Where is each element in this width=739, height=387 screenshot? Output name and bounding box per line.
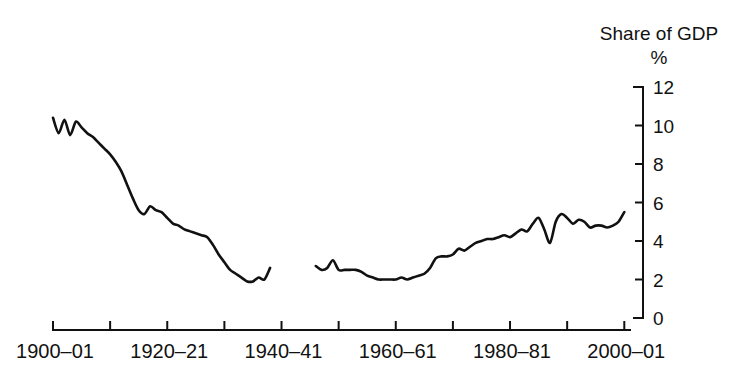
- chart-subtitle-percent: %: [651, 47, 668, 68]
- x-tick-label: 1960–61: [359, 340, 437, 362]
- series-line-segment: [53, 118, 270, 282]
- x-tick-label: 1900–01: [16, 340, 94, 362]
- line-chart: Share of GDP % 024681012 1900–011920–211…: [0, 0, 739, 387]
- y-axis: 024681012: [634, 77, 674, 329]
- chart-title: Share of GDP: [600, 23, 718, 44]
- y-tick-label: 4: [653, 231, 664, 252]
- x-axis: 1900–011920–211940–411960–611980–812000–…: [16, 321, 665, 362]
- x-tick-label: 1920–21: [130, 340, 208, 362]
- y-tick-label: 6: [653, 193, 664, 214]
- y-tick-label: 8: [653, 154, 664, 175]
- chart-container: Share of GDP % 024681012 1900–011920–211…: [0, 0, 739, 387]
- series-line-segment: [316, 212, 624, 279]
- y-tick-label: 12: [653, 77, 674, 98]
- x-tick-label: 1940–41: [245, 340, 323, 362]
- data-series: [53, 118, 624, 282]
- x-tick-label: 2000–01: [587, 340, 665, 362]
- y-tick-label: 0: [653, 308, 664, 329]
- x-tick-label: 1980–81: [473, 340, 551, 362]
- y-tick-label: 10: [653, 116, 674, 137]
- y-tick-label: 2: [653, 270, 664, 291]
